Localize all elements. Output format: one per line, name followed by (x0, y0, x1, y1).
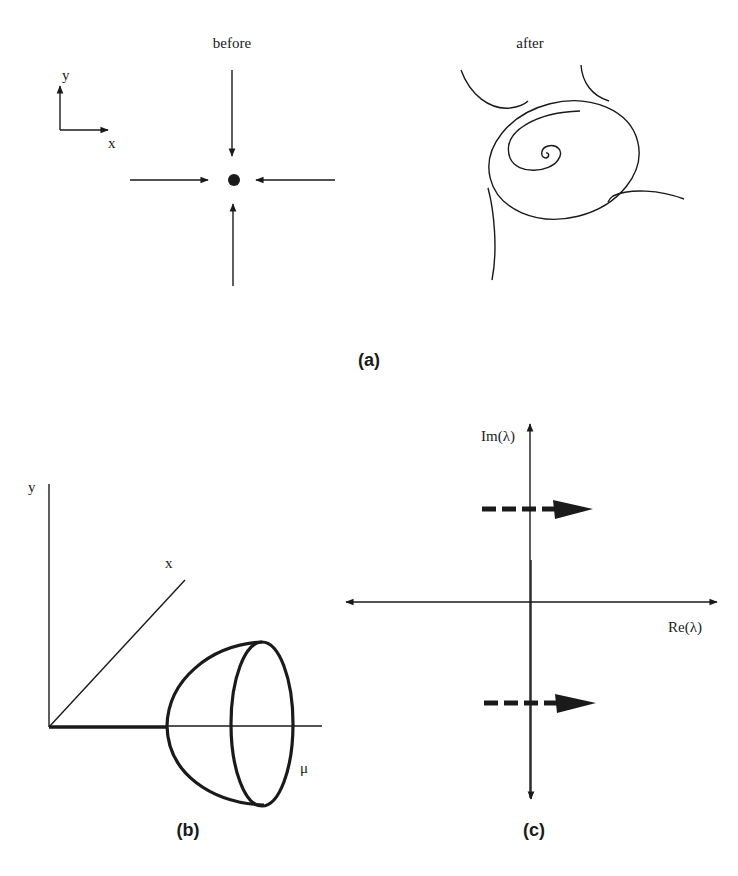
axis-label-y: y (28, 479, 36, 495)
hopf-bifurcation-figure: before y x after (a) y x (0, 0, 738, 876)
axis-label-x: x (165, 555, 173, 571)
caption-c: (c) (523, 820, 545, 840)
fixed-point (228, 174, 240, 186)
outer-trajectory-top-right (581, 65, 609, 101)
spiral-trajectory (508, 111, 580, 170)
before-title: before (213, 35, 252, 51)
axis-label-y: y (62, 67, 70, 83)
eigenvalue-upper-arrow (482, 500, 593, 519)
limit-cycle-section (231, 642, 293, 806)
after-title: after (516, 35, 543, 51)
eigenvalue-lower-arrow (484, 694, 596, 713)
caption-b: (b) (177, 820, 200, 840)
panel-a-after: after (461, 35, 684, 280)
panel-a-before: before y x (60, 35, 335, 286)
caption-a: (a) (358, 350, 380, 370)
panel-c: Im(λ) Re(λ) (346, 424, 717, 799)
outer-trajectory-right (608, 191, 684, 202)
axis-label-mu: μ (300, 760, 308, 776)
outer-trajectory-top-left (461, 70, 528, 108)
axis-label-re: Re(λ) (668, 619, 702, 636)
panel-b: y x μ (28, 479, 322, 806)
outer-trajectory-bottom-left (488, 188, 495, 280)
paraboloid-outline (167, 642, 264, 805)
axis-label-im: Im(λ) (481, 428, 515, 445)
xy-axes-icon: y x (60, 67, 116, 151)
axis-label-x: x (108, 135, 116, 151)
x-axis (49, 580, 185, 727)
